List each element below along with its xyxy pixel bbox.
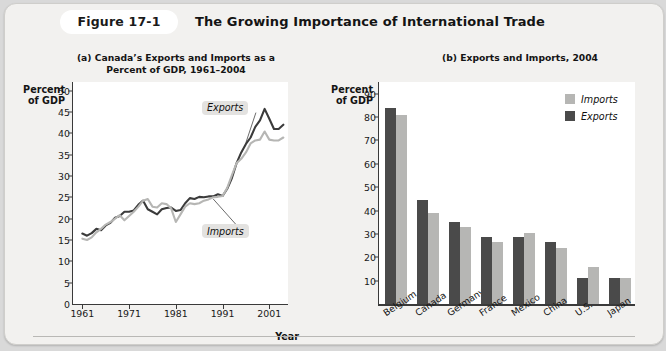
line-chart-x-tick-mark	[129, 304, 130, 309]
bar-chart-y-tick-label: 50	[342, 182, 376, 193]
line-chart-x-tick-mark	[223, 304, 224, 309]
legend-swatch-exports	[565, 111, 575, 121]
bar-chart-legend: ImportsExports	[565, 92, 618, 126]
figure-number-label: Figure 17-1	[60, 10, 178, 34]
bar-chart-y-tick-label: 60	[342, 158, 376, 169]
line-chart-x-tick-mark	[269, 304, 270, 309]
footer-divider	[33, 336, 635, 337]
bar-chart-y-tick-mark	[374, 233, 379, 234]
legend-item-exports: Exports	[565, 109, 618, 123]
legend-label-exports: Exports	[581, 111, 617, 122]
bar-canada-imports	[428, 213, 439, 304]
line-chart-callout-exports: Exports	[202, 101, 248, 115]
line-chart-svg	[73, 82, 288, 304]
line-chart-y-tick-label: 40	[36, 128, 70, 139]
callout-leader-line-1	[213, 199, 236, 224]
line-chart-y-tick-mark	[68, 261, 73, 262]
line-chart-plot-area: 0510152025303540455019611971198119912001…	[73, 82, 288, 304]
line-series-imports	[82, 132, 283, 240]
line-chart-y-tick-mark	[68, 239, 73, 240]
line-chart-y-tick-label: 35	[36, 149, 70, 160]
line-chart-y-tick-mark	[68, 133, 73, 134]
line-chart-y-tick-label: 10	[36, 256, 70, 267]
bar-canada-exports	[417, 200, 428, 304]
bar-chart-y-tick-mark	[374, 187, 379, 188]
line-chart-y-tick-mark	[68, 197, 73, 198]
bar-chart-y-tick-label: 90	[342, 88, 376, 99]
panel-a-subtitle: (a) Canada’s Exports and Imports as aPer…	[65, 52, 287, 75]
bar-chart-y-tick-label: 20	[342, 252, 376, 263]
line-chart-y-tick-mark	[68, 90, 73, 91]
line-chart-x-tick-mark	[82, 304, 83, 309]
line-chart-x-tick-label: 1971	[106, 308, 152, 319]
line-chart-y-tick-mark	[68, 154, 73, 155]
bar-chart-y-tick-mark	[374, 257, 379, 258]
line-chart-callout-imports: Imports	[202, 224, 249, 238]
bar-germany-exports	[449, 222, 460, 304]
line-chart-y-tick-label: 30	[36, 170, 70, 181]
legend-swatch-imports	[565, 94, 575, 104]
bar-chart-y-tick-label: 70	[342, 135, 376, 146]
line-chart-x-tick-label: 1961	[59, 308, 105, 319]
figure-title: The Growing Importance of International …	[195, 10, 545, 34]
line-chart-y-tick-mark	[68, 111, 73, 112]
bar-chart-y-tick-mark	[374, 140, 379, 141]
legend-item-imports: Imports	[565, 92, 618, 106]
line-chart-y-tick-label: 45	[36, 106, 70, 117]
line-chart-bottom-axis	[72, 304, 288, 305]
line-chart-x-tick-label: 1981	[153, 308, 199, 319]
figure-number-badge: Figure 17-1	[60, 10, 178, 34]
line-chart-y-tick-label: 15	[36, 234, 70, 245]
figure-header: Figure 17-1 The Growing Importance of In…	[5, 10, 663, 36]
bar-chart-y-tick-mark	[374, 117, 379, 118]
bar-chart-y-tick-mark	[374, 93, 379, 94]
bar-belgium-exports	[385, 108, 396, 304]
bar-chart-y-tick-label: 10	[342, 275, 376, 286]
bar-chart-y-tick-label: 30	[342, 228, 376, 239]
line-chart-x-tick-label: 2001	[246, 308, 292, 319]
line-chart-left-axis	[72, 82, 73, 304]
bar-chart-y-tick-mark	[374, 280, 379, 281]
legend-label-imports: Imports	[581, 94, 618, 105]
panel-b-subtitle: (b) Exports and Imports, 2004	[405, 52, 635, 64]
bar-chart-y-tick-label: 40	[342, 205, 376, 216]
line-chart-x-tick-mark	[176, 304, 177, 309]
line-chart-y-tick-label: 5	[36, 277, 70, 288]
bar-chart-y-tick-mark	[374, 163, 379, 164]
line-chart-x-tick-label: 1991	[200, 308, 246, 319]
bar-mexico-exports	[513, 237, 524, 304]
bar-chart-y-tick-label: 80	[342, 112, 376, 123]
figure-card: Figure 17-1 The Growing Importance of In…	[4, 3, 664, 345]
line-chart-y-tick-label: 20	[36, 213, 70, 224]
bar-chart-y-tick-mark	[374, 210, 379, 211]
line-series-exports	[82, 109, 283, 236]
bar-france-exports	[481, 237, 492, 304]
line-chart-y-tick-mark	[68, 282, 73, 283]
bar-belgium-imports	[396, 115, 407, 304]
bar-us-imports	[588, 267, 599, 304]
line-chart-y-tick-label: 25	[36, 192, 70, 203]
line-chart-y-tick-mark	[68, 218, 73, 219]
line-chart-y-tick-label: 50	[36, 85, 70, 96]
bar-chart-left-axis	[378, 82, 379, 304]
bar-china-exports	[545, 242, 556, 304]
line-chart-y-tick-mark	[68, 175, 73, 176]
